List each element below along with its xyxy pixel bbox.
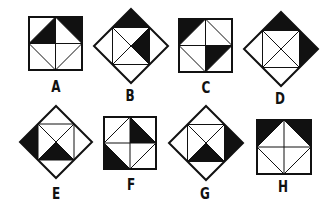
divider-line <box>284 147 311 174</box>
divider-line <box>257 147 284 174</box>
figure-label-h: H <box>278 180 288 195</box>
